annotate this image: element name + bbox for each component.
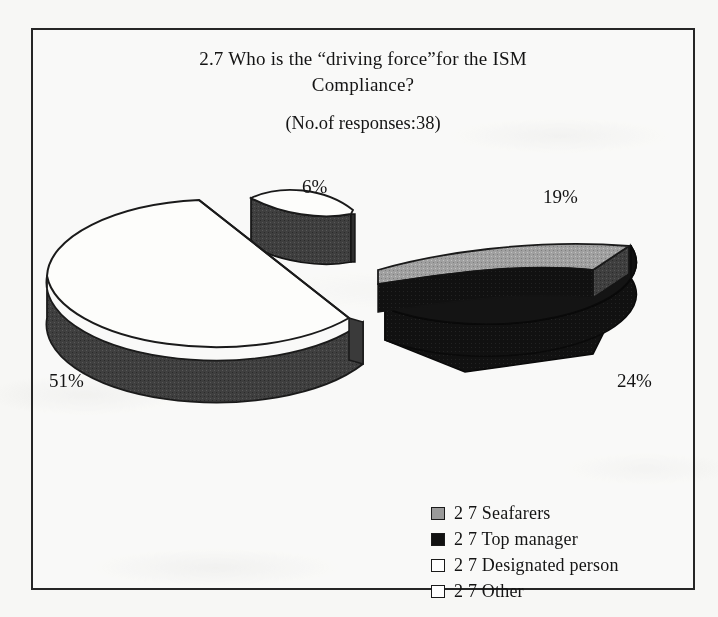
legend-label-designated-person: 2 7 Designated person [454,555,619,576]
legend-swatch-seafarers [431,507,445,520]
chart-title-line-1: 2.7 Who is the “driving force”for the IS… [33,46,693,72]
pie-chart-area: 6% 19% 24% 51% [33,158,693,458]
legend-item-top-manager[interactable]: 2 7 Top manager [431,528,619,551]
chart-legend: 2 7 Seafarers 2 7 Top manager 2 7 Design… [431,502,619,603]
legend-item-other[interactable]: 2 7 Other [431,580,619,603]
pie-label-top-manager: 24% [617,370,652,392]
legend-swatch-other [431,585,445,598]
legend-item-designated-person[interactable]: 2 7 Designated person [431,554,619,577]
chart-subtitle: (No.of responses:38) [33,110,693,136]
legend-swatch-top-manager [431,533,445,546]
chart-title-line-2: Compliance? [33,72,693,98]
legend-item-seafarers[interactable]: 2 7 Seafarers [431,502,619,525]
legend-label-top-manager: 2 7 Top manager [454,529,578,550]
pie-label-designated-person: 51% [49,370,84,392]
pie-label-other: 6% [302,176,327,198]
chart-title-block: 2.7 Who is the “driving force”for the IS… [33,46,693,136]
scanned-page: 2.7 Who is the “driving force”for the IS… [0,0,718,617]
pie-chart-svg [33,158,693,458]
legend-label-seafarers: 2 7 Seafarers [454,503,551,524]
chart-frame: 2.7 Who is the “driving force”for the IS… [31,28,695,590]
legend-label-other: 2 7 Other [454,581,524,602]
pie-label-seafarers: 19% [543,186,578,208]
legend-swatch-designated-person [431,559,445,572]
